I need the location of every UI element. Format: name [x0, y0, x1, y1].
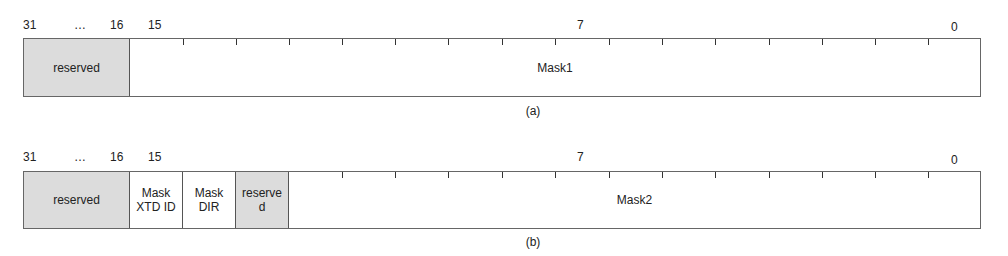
bit-tick [342, 39, 343, 45]
bit-tick [875, 172, 876, 178]
bit-tick [448, 172, 449, 178]
bit-tick [502, 172, 503, 178]
field-mask1: Mask1 [130, 39, 980, 96]
caption-b: (b) [526, 235, 541, 249]
register-b-box: reserved Mask XTD ID Mask DIR reserve d … [23, 171, 981, 229]
bit-label-7: 7 [577, 150, 584, 164]
bit-tick [822, 172, 823, 178]
field-mask-dir-line2: DIR [199, 200, 220, 214]
bit-tick [769, 172, 770, 178]
bit-tick [395, 172, 396, 178]
bit-label-31: 31 [23, 150, 36, 164]
bit-label-16: 16 [110, 18, 123, 32]
bit-tick [555, 39, 556, 45]
bit-tick [342, 172, 343, 178]
bit-tick [183, 39, 184, 45]
bit-tick [236, 39, 237, 45]
field-reserved-line2: d [259, 200, 266, 214]
bit-tick [609, 172, 610, 178]
bit-tick [928, 39, 929, 45]
bit-label-ellipsis: … [74, 18, 86, 32]
bit-tick [502, 39, 503, 45]
bit-label-31: 31 [23, 18, 36, 32]
bit-tick [822, 39, 823, 45]
bit-tick [448, 39, 449, 45]
bit-tick [875, 39, 876, 45]
field-reserved-high: reserved [24, 172, 130, 228]
bit-label-15: 15 [148, 18, 161, 32]
bit-tick [928, 172, 929, 178]
bit-tick [662, 39, 663, 45]
bit-label-7: 7 [577, 18, 584, 32]
bit-tick [715, 172, 716, 178]
bit-tick [289, 39, 290, 45]
field-reserved-bit13: reserve d [236, 172, 289, 228]
field-mask2: Mask2 [289, 172, 980, 228]
field-mask-xtd-id-line1: Mask [142, 186, 171, 200]
bit-tick [395, 39, 396, 45]
caption-a: (a) [526, 104, 541, 118]
bit-label-15: 15 [148, 150, 161, 164]
field-reserved: reserved [24, 39, 130, 96]
field-mask-dir: Mask DIR [183, 172, 236, 228]
bit-label-16: 16 [110, 150, 123, 164]
field-mask-dir-line1: Mask [195, 186, 224, 200]
bit-label-0: 0 [951, 153, 958, 167]
bit-tick [609, 39, 610, 45]
bit-tick [769, 39, 770, 45]
register-a-box: reserved Mask1 [23, 38, 981, 97]
bit-tick [662, 172, 663, 178]
bit-label-ellipsis: … [74, 150, 86, 164]
field-reserved-line1: reserve [242, 186, 282, 200]
field-mask-xtd-id-line2: XTD ID [136, 200, 175, 214]
bit-tick [555, 172, 556, 178]
bit-label-0: 0 [951, 20, 958, 34]
bit-tick [715, 39, 716, 45]
field-mask-xtd-id: Mask XTD ID [130, 172, 183, 228]
